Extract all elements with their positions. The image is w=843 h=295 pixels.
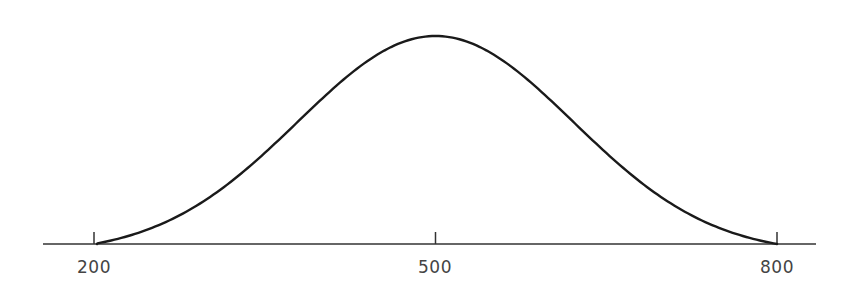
x-axis-ticks: [94, 232, 777, 244]
x-tick-label-200: 200: [77, 257, 111, 277]
x-tick-label-500: 500: [418, 257, 452, 277]
bell-curve-line: [97, 36, 777, 244]
x-axis-tick-labels: 200 500 800: [77, 257, 794, 277]
normal-distribution-chart: 200 500 800: [0, 0, 843, 295]
x-tick-label-800: 800: [760, 257, 794, 277]
